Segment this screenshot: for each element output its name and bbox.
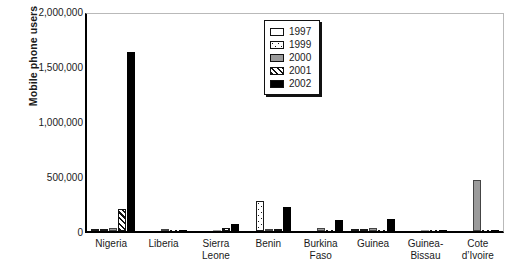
legend-item-2001[interactable]: 2001	[270, 64, 311, 77]
bar[interactable]	[317, 228, 325, 231]
bar-group	[191, 14, 243, 231]
bar[interactable]	[482, 230, 490, 231]
legend-label: 1997	[289, 27, 311, 37]
x-axis-tick-label: Guinea- Bissau	[399, 238, 451, 261]
bar[interactable]	[378, 230, 386, 231]
bar-group	[399, 14, 451, 231]
chart-figure: Mobile phone users 0500,0001,000,0001,50…	[0, 0, 520, 273]
bar[interactable]	[439, 230, 447, 231]
x-axis-tick-labels: NigeriaLiberiaSierra LeoneBeninBurkina F…	[85, 238, 504, 261]
x-axis-tick-label: Burkina Faso	[295, 238, 347, 261]
bar-group	[347, 14, 399, 231]
bar-group	[451, 14, 503, 231]
y-axis-tick-label: 500,000	[27, 173, 83, 183]
x-axis-tick-label: Guinea	[347, 238, 399, 261]
bar[interactable]	[283, 207, 291, 231]
bar[interactable]	[369, 228, 377, 231]
bar[interactable]	[161, 229, 169, 231]
legend-swatch-icon	[270, 41, 284, 49]
bar[interactable]	[152, 230, 160, 231]
bar[interactable]	[473, 180, 481, 231]
bar[interactable]	[274, 229, 282, 231]
bar[interactable]	[308, 230, 316, 231]
legend: 19971999200020012002	[264, 20, 320, 95]
bar[interactable]	[491, 230, 499, 231]
bar-group	[139, 14, 191, 231]
bar[interactable]	[247, 230, 255, 231]
bar[interactable]	[299, 230, 307, 231]
bar[interactable]	[326, 230, 334, 231]
legend-label: 2000	[289, 53, 311, 63]
bar[interactable]	[204, 230, 212, 231]
bar[interactable]	[430, 230, 438, 231]
bar[interactable]	[387, 219, 395, 231]
y-axis-tick-label: 1,500,000	[27, 63, 83, 73]
y-axis-tick-label: 0	[27, 228, 83, 238]
y-axis-tick-label: 2,000,000	[27, 8, 83, 18]
x-axis-tick-label: Cote d’Ivoire	[452, 238, 504, 261]
bar[interactable]	[222, 228, 230, 231]
bar-group	[87, 14, 139, 231]
legend-item-1999[interactable]: 1999	[270, 38, 311, 51]
bar[interactable]	[403, 230, 411, 231]
y-axis-tick-label: 1,000,000	[27, 118, 83, 128]
legend-swatch-icon	[270, 80, 284, 88]
legend-item-2000[interactable]: 2000	[270, 51, 311, 64]
bar[interactable]	[265, 229, 273, 231]
x-axis-tick-label: Liberia	[137, 238, 189, 261]
legend-label: 2001	[289, 66, 311, 76]
legend-label: 1999	[289, 40, 311, 50]
bar[interactable]	[256, 201, 264, 231]
bar[interactable]	[100, 229, 108, 231]
bar[interactable]	[455, 230, 463, 231]
x-axis-tick-label: Nigeria	[85, 238, 137, 261]
bar[interactable]	[195, 230, 203, 231]
bar[interactable]	[351, 229, 359, 231]
legend-label: 2002	[289, 79, 311, 89]
legend-swatch-icon	[270, 28, 284, 36]
legend-item-2002[interactable]: 2002	[270, 77, 311, 90]
bar[interactable]	[179, 230, 187, 231]
bar[interactable]	[213, 230, 221, 231]
bar[interactable]	[170, 230, 178, 231]
bar[interactable]	[360, 229, 368, 231]
bar[interactable]	[118, 209, 126, 231]
bar[interactable]	[127, 52, 135, 231]
bar[interactable]	[464, 230, 472, 231]
legend-swatch-icon	[270, 54, 284, 62]
bar[interactable]	[412, 230, 420, 231]
bar[interactable]	[421, 230, 429, 231]
bar[interactable]	[91, 229, 99, 231]
x-axis-tick-label: Benin	[242, 238, 294, 261]
bar[interactable]	[109, 228, 117, 231]
legend-item-1997[interactable]: 1997	[270, 25, 311, 38]
legend-swatch-icon	[270, 67, 284, 75]
bar[interactable]	[335, 220, 343, 231]
bar[interactable]	[143, 230, 151, 231]
x-axis-tick-label: Sierra Leone	[190, 238, 242, 261]
bar[interactable]	[231, 224, 239, 231]
